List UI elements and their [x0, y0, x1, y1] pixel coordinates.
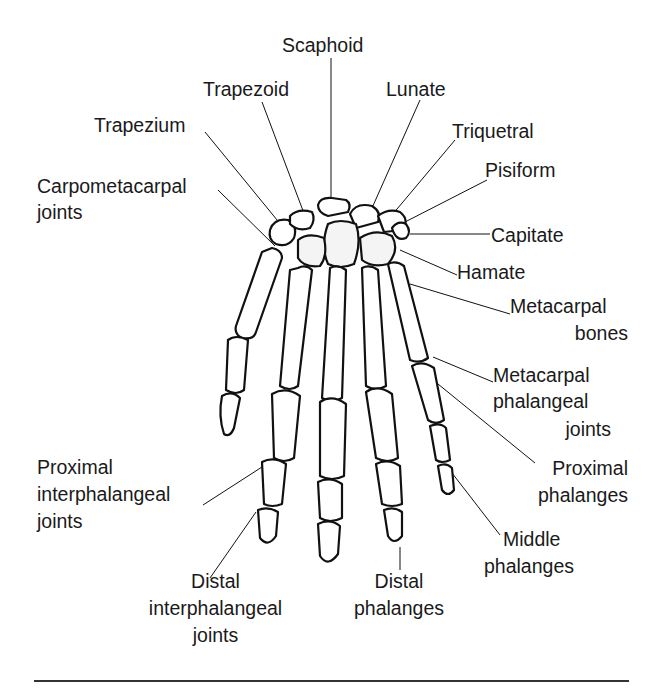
- index-proximal-phalanx: [272, 390, 300, 461]
- hamate-bone: [360, 232, 395, 265]
- label-trapezium: Trapezium: [94, 114, 185, 136]
- scaphoid-bone: [318, 198, 350, 216]
- bottom-rule-divider: [34, 680, 629, 682]
- label-trapezoid: Trapezoid: [203, 78, 289, 100]
- index-distal-phalanx: [258, 508, 278, 542]
- label-pisiform: Pisiform: [485, 159, 555, 181]
- leader-metacarpal-bones: [410, 284, 510, 314]
- leader-trapezoid: [262, 102, 305, 216]
- trapezoid-bone: [290, 211, 314, 230]
- ring-middle-phalanx: [376, 461, 402, 506]
- little-metacarpal: [388, 262, 428, 361]
- label-capitate: Capitate: [491, 224, 564, 246]
- leader-mcp-joints: [433, 357, 493, 382]
- thumb-metacarpal: [236, 248, 282, 338]
- leader-trapezium: [205, 132, 282, 226]
- leader-lunate: [372, 100, 420, 208]
- index-middle-phalanx: [262, 459, 286, 506]
- leader-carpometacarpal: [218, 190, 275, 246]
- leader-middle-phalanges: [452, 473, 500, 535]
- middle-proximal-phalanx: [320, 398, 346, 479]
- middle-metacarpal: [322, 266, 346, 401]
- label-lunate: Lunate: [386, 78, 446, 100]
- label-scaphoid: Scaphoid: [282, 34, 363, 56]
- index-metacarpal: [280, 266, 312, 389]
- carpal-small: [298, 235, 325, 266]
- leader-pisiform: [405, 180, 487, 222]
- thumb-proximal-phalanx: [226, 337, 248, 393]
- hand-skeleton-illustration: [0, 0, 658, 689]
- ring-metacarpal: [362, 266, 386, 389]
- middle-distal-phalanx: [318, 521, 340, 561]
- little-middle-phalanx: [430, 424, 450, 462]
- leader-dip-joints: [210, 512, 256, 578]
- little-distal-phalanx: [438, 464, 454, 494]
- pisiform-bone: [392, 223, 409, 239]
- thumb-distal-phalanx: [220, 393, 240, 435]
- ring-distal-phalanx: [384, 508, 402, 541]
- ring-proximal-phalanx: [366, 388, 398, 461]
- leader-hamate: [400, 250, 457, 275]
- middle-middle-phalanx: [318, 479, 342, 521]
- label-hamate: Hamate: [457, 261, 525, 283]
- capitate-bone: [324, 221, 359, 267]
- leader-triquetral: [392, 140, 455, 215]
- leader-pip-joints: [203, 467, 262, 505]
- label-triquetral: Triquetral: [452, 120, 534, 142]
- little-proximal-phalanx: [412, 363, 444, 423]
